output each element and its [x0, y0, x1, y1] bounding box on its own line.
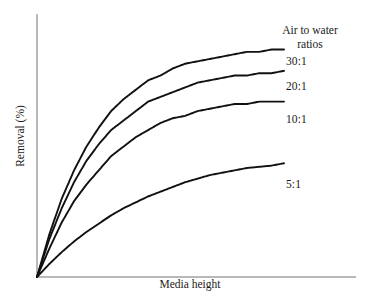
series-label-10-to-1: 10:1	[286, 113, 307, 126]
series-label-20-to-1: 20:1	[286, 80, 307, 93]
series-label-5-to-1: 5:1	[286, 178, 301, 191]
x-axis-label: Media height	[120, 278, 260, 290]
legend-title-line-1: Air to water	[258, 24, 362, 38]
axes-group	[37, 14, 356, 277]
curve-10-to-1	[37, 102, 284, 277]
legend-title-line-2: ratios	[258, 38, 362, 52]
y-axis-label: Removal (%)	[14, 71, 26, 201]
legend-title: Air to water ratios	[258, 24, 362, 52]
series-curves-group	[37, 49, 284, 277]
air-to-water-removal-chart: Air to water ratios 30:1 20:1 10:1 5:1 M…	[0, 0, 365, 305]
series-label-30-to-1: 30:1	[286, 55, 307, 68]
curve-30-to-1	[37, 49, 284, 277]
curve-20-to-1	[37, 71, 284, 277]
